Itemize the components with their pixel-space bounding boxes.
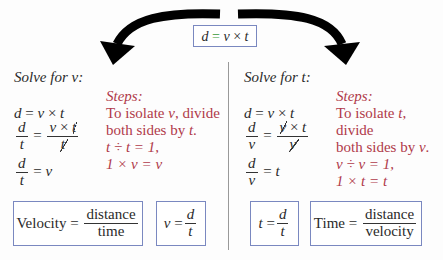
cancelled-t: t bbox=[59, 137, 67, 153]
cancelled-v: v bbox=[288, 137, 299, 153]
times-sign: × bbox=[233, 28, 241, 45]
var-v: v bbox=[223, 28, 229, 45]
left-heading: Solve for v: bbox=[14, 69, 83, 86]
right-equation-2: dv = v × tv bbox=[244, 120, 310, 153]
cancelled-t: t bbox=[72, 119, 76, 135]
right-steps: Steps: To isolate t, divide both sides b… bbox=[336, 88, 443, 190]
left-equation-3: dt = v bbox=[14, 156, 52, 189]
right-equation-3: dv = t bbox=[244, 156, 280, 189]
equals-sign: = bbox=[212, 28, 220, 45]
var-t: t bbox=[245, 28, 249, 45]
cancelled-v: v bbox=[279, 119, 286, 135]
var-d: d bbox=[202, 28, 209, 45]
time-formula-box: Time = distancevelocity bbox=[310, 201, 422, 246]
left-equation-2: dt = v × tt bbox=[14, 120, 80, 153]
t-formula-box: t = dt bbox=[250, 201, 299, 246]
column-divider bbox=[228, 62, 229, 250]
v-formula-box: v = dt bbox=[156, 201, 206, 246]
left-steps: Steps: To isolate v, divide both sides b… bbox=[106, 88, 220, 173]
distance-formula-box: d = v × t bbox=[193, 25, 257, 47]
right-heading: Solve for t: bbox=[244, 69, 311, 86]
velocity-formula-box: Velocity = distancetime bbox=[13, 201, 143, 246]
